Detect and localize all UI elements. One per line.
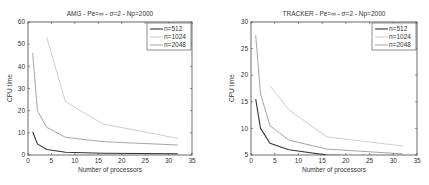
series-line [33,132,178,154]
plot-lines [256,35,403,157]
series-line [47,38,178,139]
x-tick-label: 5 [273,157,277,164]
y-axis-label: CPU time [6,74,13,102]
x-tick-label: 15 [95,157,103,164]
legend-entry: n=512 [164,25,183,32]
y-tick-label: 0 [21,151,25,158]
x-tick-label: 0 [26,157,30,164]
y-axis-label: CPU time [228,74,235,102]
legend-entry: n=512 [389,25,408,32]
x-tick-label: 10 [71,157,79,164]
y-tick-label: 25 [241,45,249,52]
x-axis-label: Number of processors [302,166,367,174]
x-tick-label: 30 [165,157,173,164]
x-tick-label: 35 [188,157,196,164]
x-tick-label: 5 [50,157,54,164]
chart-title: AMG - Pe=∞ - σ=2 - Np=2000 [67,10,154,18]
legend-entry: n=1024 [164,33,186,40]
legend-entry: n=2048 [389,41,411,48]
plot-lines [33,38,178,154]
figure: AMG - Pe=∞ - σ=2 - Np=2000 0510152025303… [0,0,429,185]
legend: n=512n=1024n=2048 [372,23,416,50]
x-tick-label: 10 [295,157,303,164]
legend-entry: n=2048 [164,41,186,48]
x-tick-label: 15 [319,157,327,164]
y-tick-label: 50 [18,40,26,47]
legend-entry: n=1024 [389,33,411,40]
chart-title: TRACKER - Pe=∞ - σ=2 - Np=2000 [283,10,386,18]
x-axis-label: Number of processors [78,166,143,174]
legend: n=512n=1024n=2048 [147,23,191,50]
series-line [33,53,178,145]
chart-amg: AMG - Pe=∞ - σ=2 - Np=2000 0510152025303… [6,10,196,174]
x-tick-label: 20 [118,157,126,164]
y-tick-label: 15 [241,98,249,105]
y-tick-label: 20 [18,107,26,114]
y-tick-label: 10 [18,129,26,136]
y-tick-label: 60 [18,18,26,25]
x-tick-label: 30 [390,157,398,164]
y-tick-label: 10 [241,125,249,132]
chart-tracker: TRACKER - Pe=∞ - σ=2 - Np=2000 051015202… [228,10,421,174]
x-tick-label: 25 [142,157,150,164]
series-line [256,35,403,154]
x-tick-label: 0 [249,157,253,164]
x-tick-label: 25 [366,157,374,164]
y-tick-label: 20 [241,71,249,78]
y-tick-label: 30 [241,18,249,25]
y-tick-label: 40 [18,63,26,70]
y-tick-label: 30 [18,85,26,92]
series-line [270,86,403,146]
y-tick-label: 5 [244,151,248,158]
x-tick-label: 35 [413,157,421,164]
x-tick-label: 20 [342,157,350,164]
